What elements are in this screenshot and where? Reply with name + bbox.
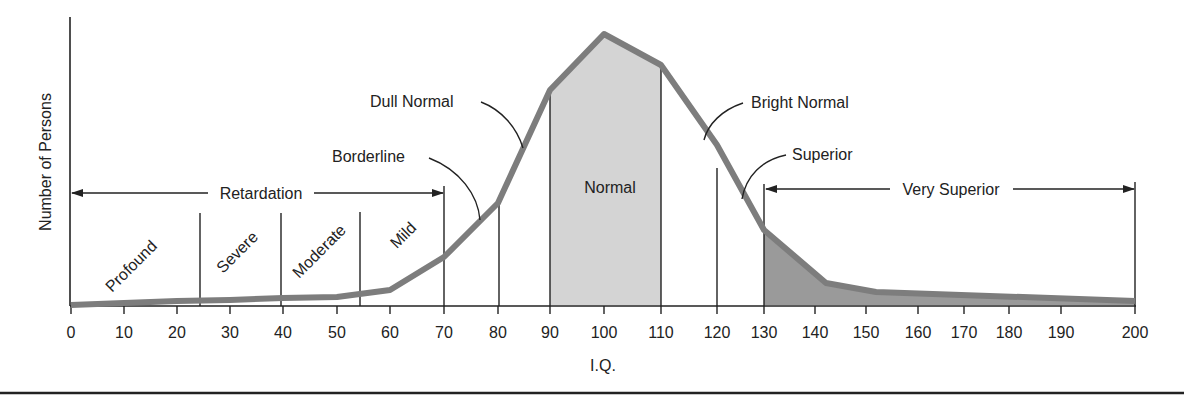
iq-distribution-chart: 0 10 20 30 40 50 60 70 80 90 100 110 120… <box>0 0 1184 403</box>
tick-label: 20 <box>168 324 186 341</box>
dull-normal-leader <box>481 102 523 148</box>
retardation-label: Retardation <box>220 185 303 202</box>
tick-label: 150 <box>853 324 880 341</box>
superior-label: Superior <box>792 146 853 163</box>
tick-label: 170 <box>951 324 978 341</box>
tick-label: 50 <box>328 324 346 341</box>
tick-label: 60 <box>381 324 399 341</box>
tick-label: 80 <box>489 324 507 341</box>
tick-label: 180 <box>996 324 1023 341</box>
x-tick-labels: 0 10 20 30 40 50 60 70 80 90 100 110 120… <box>67 324 1149 341</box>
tick-label: 40 <box>274 324 292 341</box>
severe-label: Severe <box>213 228 261 276</box>
tick-label: 110 <box>648 324 674 341</box>
normal-label: Normal <box>584 179 636 196</box>
dull-normal-label: Dull Normal <box>370 93 454 110</box>
borderline-label: Borderline <box>332 148 405 165</box>
tick-label: 70 <box>435 324 453 341</box>
tick-label: 0 <box>67 324 76 341</box>
tick-label: 30 <box>221 324 239 341</box>
tick-label: 160 <box>905 324 932 341</box>
profound-label: Profound <box>102 237 160 295</box>
tick-label: 140 <box>802 324 829 341</box>
very-superior-label: Very Superior <box>903 181 1001 198</box>
borderline-leader <box>429 158 480 220</box>
tick-label: 100 <box>591 324 618 341</box>
moderate-label: Moderate <box>289 221 349 281</box>
tick-label: 190 <box>1048 324 1075 341</box>
y-axis-title: Number of Persons <box>37 93 54 231</box>
tick-label: 10 <box>115 324 133 341</box>
x-ticks <box>71 306 1135 314</box>
tick-label: 200 <box>1122 324 1149 341</box>
mild-label: Mild <box>387 219 420 252</box>
bright-normal-label: Bright Normal <box>751 94 849 111</box>
tick-label: 130 <box>751 324 778 341</box>
tick-label: 120 <box>704 324 731 341</box>
x-axis-title: I.Q. <box>590 357 616 374</box>
tick-label: 90 <box>541 324 559 341</box>
